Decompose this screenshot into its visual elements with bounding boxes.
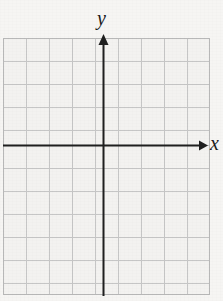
y-axis-label: y: [97, 8, 106, 28]
x-axis-label: x: [210, 133, 219, 153]
coordinate-grid: [0, 0, 223, 301]
coordinate-plane-figure: y x: [0, 0, 223, 301]
grid-background: [4, 39, 210, 295]
